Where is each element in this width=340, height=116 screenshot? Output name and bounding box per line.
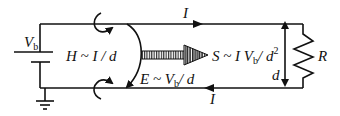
electric-field-label: E ~ Vb/ d <box>139 71 195 89</box>
transmission-line-diagram: Vb H ~ I / d E ~ Vb/ d S ~ I Vb/ d2 <box>0 0 340 116</box>
poynting-vector-label: S ~ I Vb/ d2 <box>212 45 278 66</box>
ground-icon <box>36 88 54 109</box>
poynting-vector-arrow <box>142 45 208 65</box>
resistor-label: R <box>317 48 327 64</box>
battery-voltage-label: Vb <box>24 34 38 52</box>
magnetic-field-loop-bottom <box>94 80 112 99</box>
current-bottom-label: I <box>209 91 216 107</box>
resistor <box>294 24 313 88</box>
magnetic-field-loop-top <box>94 13 112 32</box>
current-arrow-top <box>193 20 203 28</box>
battery <box>14 24 53 88</box>
separation-label: d <box>272 67 280 83</box>
magnetic-field-label: H ~ I / d <box>65 48 117 64</box>
current-top-label: I <box>182 5 189 21</box>
